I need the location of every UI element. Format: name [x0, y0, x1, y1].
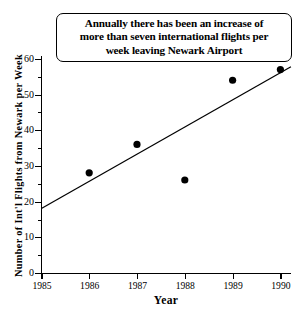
y-axis-title: Number of Int'l Flights from Newark per … — [13, 52, 24, 280]
chart-screenshot: Annually there has been an increase of m… — [0, 0, 300, 313]
annotation-box: Annually there has been an increase of m… — [56, 13, 292, 62]
y-tick-minor-5 — [38, 255, 42, 256]
x-tick-label-1986: 1986 — [70, 281, 110, 291]
x-tick-1987 — [137, 274, 138, 280]
x-tick-label-1990: 1990 — [261, 281, 300, 291]
data-point-1987 — [133, 141, 140, 148]
x-tick-label-1985: 1985 — [22, 281, 62, 291]
y-tick-minor-15 — [38, 220, 42, 221]
y-tick-minor-55 — [38, 77, 42, 78]
annotation-line-3: week leaving Newark Airport — [106, 44, 243, 56]
x-axis-line — [41, 273, 291, 274]
annotation-text: Annually there has been an increase of m… — [80, 17, 268, 58]
data-point-group — [86, 66, 284, 184]
data-point-1990 — [277, 66, 284, 73]
y-tick-60 — [35, 59, 42, 60]
x-tick-1986 — [89, 274, 90, 280]
annotation-line-1: Annually there has been an increase of — [85, 17, 264, 29]
x-tick-1989 — [233, 274, 234, 280]
y-tick-20 — [35, 202, 42, 203]
data-point-1988 — [181, 176, 188, 183]
y-tick-40 — [35, 130, 42, 131]
x-tick-1990 — [280, 274, 281, 280]
x-tick-label-1989: 1989 — [213, 281, 253, 291]
data-point-1986 — [86, 169, 93, 176]
x-tick-label-1987: 1987 — [118, 281, 158, 291]
y-tick-minor-25 — [38, 184, 42, 185]
y-tick-50 — [35, 95, 42, 96]
x-tick-label-1988: 1988 — [165, 281, 205, 291]
y-tick-minor-35 — [38, 148, 42, 149]
x-tick-1985 — [41, 274, 42, 280]
x-tick-1988 — [185, 274, 186, 280]
x-axis-title: Year — [41, 294, 291, 307]
y-tick-10 — [35, 237, 42, 238]
y-tick-minor-45 — [38, 112, 42, 113]
y-axis-line — [41, 56, 42, 274]
y-tick-30 — [35, 166, 42, 167]
annotation-line-2: more than seven international flights pe… — [80, 30, 268, 42]
trend-line — [41, 67, 291, 209]
data-point-1989 — [229, 77, 236, 84]
